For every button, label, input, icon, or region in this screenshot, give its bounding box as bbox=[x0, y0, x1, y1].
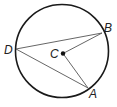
radius-cb bbox=[63, 33, 102, 54]
label-c: C bbox=[50, 47, 59, 61]
radius-ca bbox=[63, 54, 88, 89]
circle-diagram: D B C A bbox=[0, 0, 117, 107]
center-point bbox=[61, 51, 65, 55]
label-a: A bbox=[88, 87, 97, 101]
circle bbox=[16, 5, 109, 98]
label-b: B bbox=[104, 21, 112, 35]
label-d: D bbox=[4, 43, 13, 57]
chord-db bbox=[16, 33, 102, 49]
